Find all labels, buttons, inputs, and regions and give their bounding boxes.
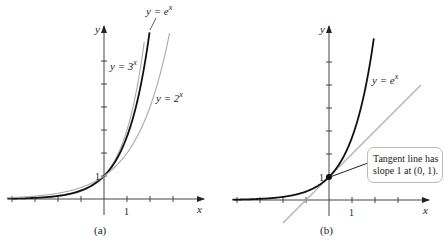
label-2x: y = 2x: [155, 90, 183, 104]
panel-a-xtick-label: 1: [124, 206, 129, 217]
panel-a-xlabel: x: [196, 203, 202, 215]
callout-line-2: slope 1 at (0, 1).: [373, 165, 442, 177]
panel-b-xlabel: x: [422, 204, 428, 216]
panel-b-ytick-label: 1: [319, 172, 324, 183]
panel-a-ytick-label: 1: [95, 171, 100, 182]
tangent-callout: Tangent line has slope 1 at (0, 1).: [367, 147, 443, 183]
label-ex-b: y = ex: [371, 72, 399, 86]
panel-b: [232, 26, 429, 223]
label-ex-a-leader: [150, 18, 156, 30]
figure: y x 1 1 (a) y = 3x y = ex y = 2x y x 1 1…: [0, 0, 445, 242]
panel-b-xtick-label: 1: [349, 207, 354, 218]
panel-a-ylabel: y: [94, 23, 100, 35]
panel-b-ylabel: y: [319, 23, 325, 35]
panel-b-series-y-e-x: [232, 38, 373, 199]
panel-a-label: (a): [94, 224, 107, 237]
label-3x: y = 3x: [109, 58, 137, 72]
label-ex-a: y = ex: [145, 3, 173, 17]
panel-a-series-y-e-x: [7, 32, 149, 198]
panel-b-label: (b): [320, 224, 333, 237]
callout-line-1: Tangent line has: [373, 153, 442, 165]
panel-a: [7, 26, 204, 215]
